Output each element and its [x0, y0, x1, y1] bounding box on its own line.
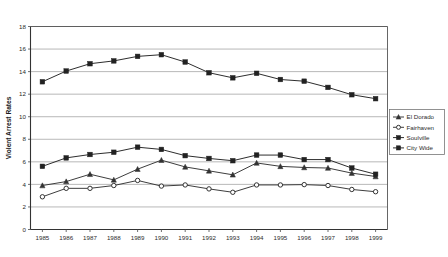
data-point	[183, 60, 188, 65]
x-tick-label: 1989	[131, 234, 145, 241]
data-point	[159, 52, 164, 57]
data-point	[302, 79, 307, 84]
data-point	[254, 71, 259, 76]
legend-label: Soulville	[407, 134, 431, 141]
data-point	[112, 183, 116, 187]
data-point	[64, 186, 68, 190]
legend-marker	[396, 146, 400, 150]
x-tick-label: 1994	[250, 234, 264, 241]
data-point	[183, 183, 187, 187]
x-tick-label: 1998	[345, 234, 359, 241]
y-axis-title: Violent Arrest Rates	[5, 96, 12, 159]
data-point	[112, 59, 117, 64]
data-point	[278, 77, 283, 82]
data-point	[183, 153, 188, 158]
data-point	[373, 190, 377, 194]
legend-label: El Dorado	[407, 113, 435, 120]
data-point	[302, 182, 306, 186]
data-point	[326, 183, 330, 187]
x-tick-label: 1993	[226, 234, 240, 241]
data-point	[278, 153, 283, 158]
x-tick-label: 1996	[297, 234, 311, 241]
y-tick-label: 16	[19, 45, 26, 52]
data-point	[231, 158, 236, 163]
data-point	[135, 145, 140, 150]
data-point	[278, 183, 282, 187]
x-tick-label: 1995	[274, 234, 288, 241]
data-point	[135, 178, 139, 182]
y-tick-label: 4	[23, 181, 27, 188]
legend-marker	[396, 136, 400, 140]
x-tick-label: 1987	[83, 234, 97, 241]
data-point	[88, 152, 93, 157]
data-point	[207, 187, 211, 191]
legend-marker	[397, 125, 401, 129]
data-point	[207, 156, 212, 161]
data-point	[135, 54, 140, 59]
data-point	[64, 156, 69, 161]
legend-label: Fairhaven	[407, 124, 435, 131]
legend: El DoradoFairhavenSoulvilleCity Wide	[390, 110, 445, 155]
data-point	[40, 195, 44, 199]
data-point	[254, 153, 259, 158]
data-point	[231, 76, 236, 81]
x-tick-label: 1985	[36, 234, 50, 241]
data-point	[40, 164, 45, 169]
chart-container: 0246810121416181985198619871988198919901…	[0, 0, 448, 257]
y-tick-label: 12	[19, 90, 26, 97]
y-tick-label: 18	[19, 23, 26, 30]
data-point	[88, 186, 92, 190]
x-tick-label: 1997	[321, 234, 335, 241]
line-chart: 0246810121416181985198619871988198919901…	[0, 0, 448, 257]
legend-label: City Wide	[407, 144, 434, 151]
data-point	[373, 172, 378, 177]
data-point	[159, 184, 163, 188]
data-point	[159, 147, 164, 152]
data-point	[64, 69, 69, 74]
data-point	[373, 96, 378, 101]
data-point	[350, 166, 355, 171]
data-point	[88, 61, 93, 66]
y-tick-label: 2	[23, 203, 27, 210]
y-tick-label: 6	[23, 158, 27, 165]
y-tick-label: 0	[23, 226, 27, 233]
y-tick-label: 8	[23, 135, 27, 142]
x-tick-label: 1990	[155, 234, 169, 241]
x-tick-label: 1988	[107, 234, 121, 241]
plot-area	[31, 27, 388, 230]
y-tick-label: 14	[19, 68, 26, 75]
data-point	[350, 92, 355, 97]
y-tick-label: 10	[19, 113, 26, 120]
data-point	[112, 150, 117, 155]
data-point	[254, 183, 258, 187]
data-point	[207, 70, 212, 75]
data-point	[326, 157, 331, 162]
data-point	[40, 79, 45, 84]
data-point	[326, 85, 331, 90]
x-tick-label: 1991	[178, 234, 192, 241]
x-tick-label: 1992	[202, 234, 216, 241]
x-tick-label: 1986	[59, 234, 73, 241]
data-point	[350, 187, 354, 191]
data-point	[302, 157, 307, 162]
data-point	[231, 190, 235, 194]
x-tick-label: 1999	[369, 234, 383, 241]
